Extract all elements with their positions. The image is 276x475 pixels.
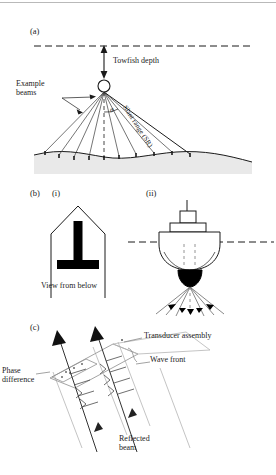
phase-difference-patch: [52, 359, 97, 382]
ship-bridge: [180, 211, 196, 223]
transducer-array-horizontal: [57, 260, 99, 269]
reflected-beam-ray-2-midarrow: [128, 408, 137, 418]
angle-theta-label: θ: [110, 106, 113, 114]
panel-a: (a) Towfish depth Example beams θ Slant …: [0, 24, 276, 174]
phase-difference-label: Phase difference: [2, 367, 34, 385]
towfish-depth-arrowhead-down: [101, 71, 108, 79]
panel-b: (b) (i) (ii) View from below: [0, 188, 276, 318]
hull-transducer: [178, 270, 202, 287]
panel-a-graphic: [0, 24, 276, 174]
ship-deckhouse: [170, 223, 206, 232]
figure-root: (a) Towfish depth Example beams θ Slant …: [0, 0, 276, 475]
beam-arrowheads: [168, 304, 214, 315]
towfish-icon: [98, 80, 110, 92]
reflected-beam-label: Reflected beam: [119, 435, 150, 453]
example-beams-label: Example beams: [16, 80, 44, 98]
panel-a-id: (a): [30, 26, 39, 36]
panel-c-id: (c): [30, 322, 39, 332]
transducer-array-vertical: [74, 221, 83, 260]
reflected-beam-ray-1-arrowhead: [52, 330, 66, 346]
beam-fan: [45, 92, 172, 157]
panel-b-ii-graphic: [126, 192, 276, 317]
transducer-assembly-point: [121, 339, 123, 341]
top-rule: [0, 2, 276, 3]
reflected-beam-ray-1: [59, 338, 97, 452]
reflected-beam-ray-2-arrowhead: [90, 326, 104, 342]
example-beams-arrowhead-1: [90, 94, 96, 99]
ship-hull: [159, 232, 220, 270]
wave-front-label: Wave front: [150, 355, 186, 364]
reflected-beam-ray-1-midarrow: [94, 422, 103, 432]
transducer-assembly-label: Transducer assembly: [144, 331, 211, 340]
panel-c: (c): [0, 320, 276, 475]
towfish-depth-label: Towfish depth: [113, 56, 159, 65]
view-from-below-caption: View from below: [41, 281, 97, 290]
